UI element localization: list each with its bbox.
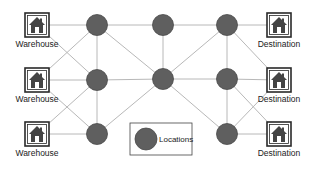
location-node-R1: [217, 15, 238, 36]
warehouse-3: Warehouse: [15, 122, 58, 158]
warehouse-label: Warehouse: [15, 148, 58, 158]
legend-location-icon: [135, 128, 157, 150]
warehouse-2: Warehouse: [15, 68, 58, 104]
warehouse-1: Warehouse: [15, 13, 58, 49]
destination-label: Destination: [258, 39, 301, 49]
location-node-R3: [217, 124, 238, 145]
destinations-layer: DestinationDestinationDestination: [258, 13, 301, 158]
location-node-R2: [217, 69, 238, 90]
warehouse-label: Warehouse: [15, 94, 58, 104]
warehouse-label: Warehouse: [15, 39, 58, 49]
destination-label: Destination: [258, 148, 301, 158]
location-node-L1: [87, 15, 108, 36]
legend-label: Locations: [159, 135, 193, 144]
destination-1: Destination: [258, 13, 301, 49]
warehouses-layer: WarehouseWarehouseWarehouse: [15, 13, 58, 158]
location-node-C1: [153, 15, 174, 36]
network-diagram: WarehouseWarehouseWarehouse DestinationD…: [0, 0, 316, 173]
destination-3: Destination: [258, 122, 301, 158]
location-node-C2: [153, 69, 174, 90]
edge-C2-R1: [163, 25, 227, 79]
location-node-L2: [87, 70, 108, 91]
destination-label: Destination: [258, 94, 301, 104]
location-node-L3: [87, 124, 108, 145]
edge-L1-C2: [97, 25, 163, 79]
destination-2: Destination: [258, 68, 301, 104]
legend: Locations: [130, 123, 193, 155]
